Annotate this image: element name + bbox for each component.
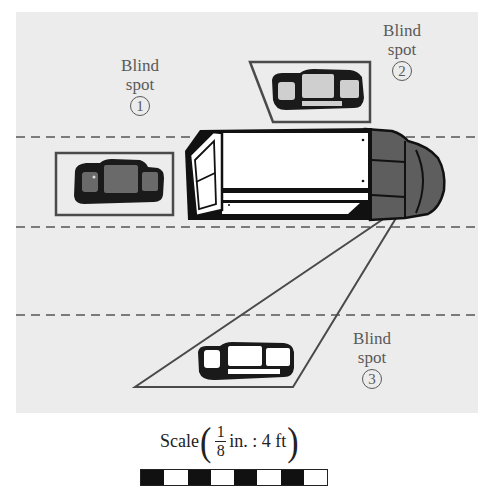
blind-spot-number-3: 3 [362, 369, 382, 389]
blind-spot-1-label: Blind spot 1 [110, 56, 170, 116]
label-line-2: spot [342, 348, 402, 367]
blind-spot-number-1: 1 [130, 96, 150, 116]
scale-segment [188, 470, 211, 485]
scale-caption: Scale ( 1 8 in. : 4 ft ) [160, 424, 300, 459]
blind-spot-2-label: Blind spot 2 [372, 21, 432, 81]
scale-prefix: Scale [160, 431, 199, 452]
label-line-2: spot [372, 40, 432, 59]
scale-suffix: in. : 4 ft [229, 431, 286, 452]
car-3 [198, 342, 294, 380]
fraction-numerator: 1 [217, 424, 225, 440]
scale-segment [141, 470, 164, 485]
scale-segment [164, 470, 187, 485]
scale-segment [211, 470, 234, 485]
scale-segment [234, 470, 257, 485]
scale-bar [140, 469, 328, 486]
fraction-denominator: 8 [217, 443, 225, 459]
car-2 [272, 69, 364, 110]
scale-segment [304, 470, 327, 485]
scale-segment [257, 470, 280, 485]
scale-fraction: 1 8 [215, 424, 226, 459]
blind-spot-number-2: 2 [392, 61, 412, 81]
open-paren: ( [200, 422, 211, 461]
label-line-1: Blind [372, 21, 432, 40]
blind-spot-3-label: Blind spot 3 [342, 329, 402, 389]
scale-segment [281, 470, 304, 485]
label-line-1: Blind [110, 56, 170, 75]
truck [185, 128, 444, 220]
label-line-1: Blind [342, 329, 402, 348]
label-line-2: spot [110, 75, 170, 94]
truck-cargo-box [222, 133, 368, 188]
close-paren: ) [287, 422, 298, 461]
